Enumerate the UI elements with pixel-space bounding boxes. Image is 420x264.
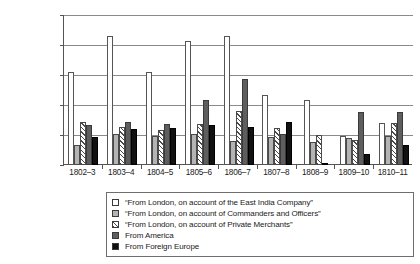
legend-label: “From London, on account of Commanders a… (125, 209, 321, 218)
bar-group (374, 15, 413, 165)
x-tick-label: 1807–8 (257, 168, 296, 178)
chart-legend: “From London, on account of the East Ind… (106, 192, 414, 257)
x-axis-labels: 1802–31803–41804–51805–61806–71807–81808… (63, 168, 412, 178)
legend-swatch-icon (112, 232, 119, 239)
legend-item[interactable]: “From London, on account of Commanders a… (112, 208, 408, 219)
plot-area (63, 15, 412, 165)
x-tick-label: 1810–11 (373, 168, 412, 178)
bar[interactable] (316, 135, 322, 165)
bar-group (297, 15, 336, 165)
legend-swatch-icon (112, 221, 119, 228)
x-tick-label: 1804–5 (141, 168, 180, 178)
legend-swatch-icon (112, 243, 119, 250)
bar[interactable] (92, 137, 98, 165)
x-tick-label: 1802–3 (63, 168, 102, 178)
x-tick-label: 1803–4 (102, 168, 141, 178)
legend-label: From America (125, 231, 174, 240)
bar[interactable] (322, 163, 328, 165)
bar-groups (64, 15, 413, 165)
bar-group (335, 15, 374, 165)
bar[interactable] (364, 154, 370, 165)
bar[interactable] (170, 128, 176, 165)
bar-group (219, 15, 258, 165)
legend-label: “From London, on account of Private Merc… (125, 220, 292, 229)
x-tick-label: 1806–7 (218, 168, 257, 178)
bar[interactable] (403, 145, 409, 165)
bar-group (64, 15, 103, 165)
legend-item[interactable]: From Foreign Europe (112, 241, 408, 252)
y-tick-mark (60, 165, 64, 166)
bar[interactable] (209, 125, 215, 165)
bar-group (258, 15, 297, 165)
legend-label: From Foreign Europe (125, 242, 199, 251)
legend-item[interactable]: “From London, on account of Private Merc… (112, 219, 408, 230)
x-tick-label: 1808–9 (296, 168, 335, 178)
bar[interactable] (286, 122, 292, 165)
bar-group (142, 15, 181, 165)
bar-group (103, 15, 142, 165)
legend-swatch-icon (112, 199, 119, 206)
legend-swatch-icon (112, 210, 119, 217)
bar[interactable] (248, 127, 254, 165)
legend-label: “From London, on account of the East Ind… (125, 198, 313, 207)
bar[interactable] (131, 129, 137, 165)
bar-group (180, 15, 219, 165)
x-tick-label: 1805–6 (179, 168, 218, 178)
legend-item[interactable]: “From London, on account of the East Ind… (112, 197, 408, 208)
bar-chart: £2,500,000 £2,000,000 £1,500,000 £1,000,… (0, 0, 420, 264)
legend-item[interactable]: From America (112, 230, 408, 241)
x-tick-label: 1809–10 (334, 168, 373, 178)
